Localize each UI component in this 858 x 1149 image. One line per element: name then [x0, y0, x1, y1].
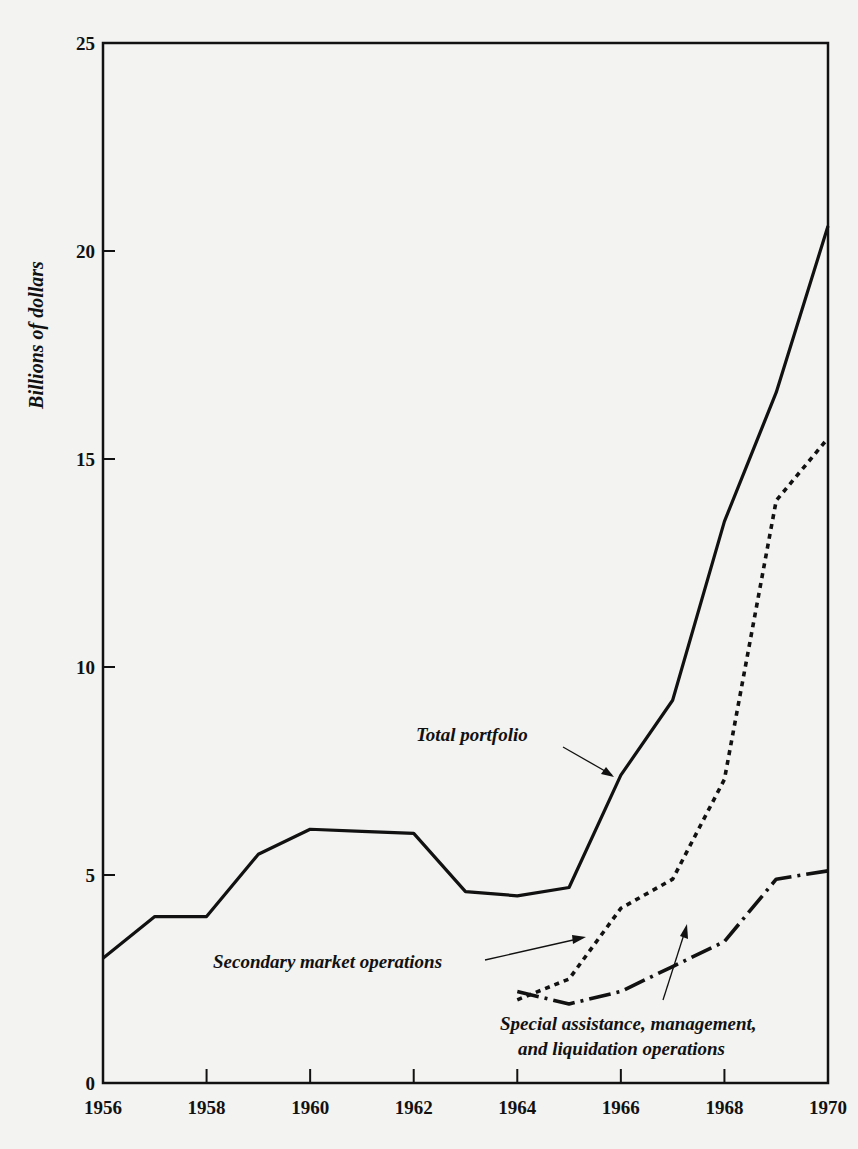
arrowhead-icon — [572, 935, 586, 944]
plot-frame — [103, 43, 828, 1083]
x-tick-label: 1968 — [705, 1097, 743, 1118]
series-special-assistance-management-and-liquidation-operations — [517, 871, 828, 1004]
x-axis: 19561958196019621964196619681970 — [84, 1069, 847, 1118]
x-tick-label: 1958 — [188, 1097, 226, 1118]
annotation-special-assistance-line2: and liquidation operations — [518, 1038, 725, 1059]
x-tick-label: 1962 — [395, 1097, 433, 1118]
line-chart: 0510152025 19561958196019621964196619681… — [0, 0, 858, 1149]
annotation-secondary-market: Secondary market operations — [213, 951, 442, 972]
annotation-special-assistance-line1: Special assistance, management, — [500, 1013, 757, 1034]
y-tick-label: 25 — [76, 33, 95, 54]
arrow-special-assistance — [663, 928, 686, 1000]
x-tick-label: 1956 — [84, 1097, 122, 1118]
x-tick-label: 1966 — [602, 1097, 640, 1118]
y-tick-label: 15 — [76, 449, 95, 470]
series-secondary-market-operations — [517, 438, 828, 1000]
x-tick-label: 1964 — [498, 1097, 537, 1118]
x-tick-label: 1960 — [291, 1097, 329, 1118]
x-tick-label: 1970 — [809, 1097, 847, 1118]
arrow-secondary-market — [485, 938, 582, 960]
y-tick-label: 5 — [86, 865, 96, 886]
y-axis-title: Billions of dollars — [25, 261, 48, 410]
arrowhead-icon — [601, 767, 614, 777]
y-tick-label: 10 — [76, 657, 95, 678]
y-axis: 0510152025 — [76, 33, 115, 1094]
y-tick-label: 0 — [86, 1073, 96, 1094]
y-tick-label: 20 — [76, 241, 95, 262]
arrowhead-icon — [680, 924, 688, 939]
series-total-portfolio — [103, 226, 828, 958]
annotation-total-portfolio: Total portfolio — [416, 724, 528, 745]
series-group — [103, 226, 828, 1004]
